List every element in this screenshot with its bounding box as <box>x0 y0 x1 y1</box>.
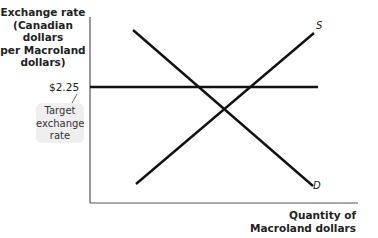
callout-pointer <box>72 94 77 103</box>
x-axis-label-line: Macroland dollars <box>250 222 356 235</box>
x-axis-label-line: Quantity of <box>250 209 356 222</box>
chart-plot <box>0 0 378 238</box>
x-axis-label: Quantity of Macroland dollars <box>250 209 356 234</box>
supply-label: S <box>316 20 322 31</box>
demand-label: D <box>313 180 321 191</box>
